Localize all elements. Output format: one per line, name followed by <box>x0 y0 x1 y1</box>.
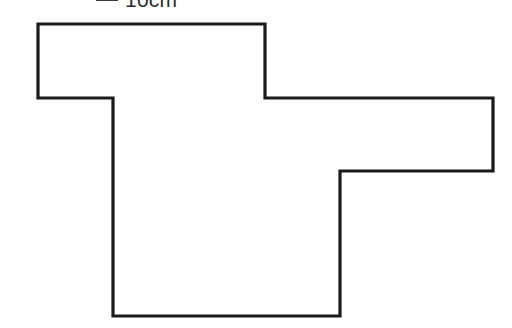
cuboid-net-figure <box>0 0 512 328</box>
net-outline-path <box>38 24 493 316</box>
diagram-canvas: 10cm <box>0 0 512 328</box>
